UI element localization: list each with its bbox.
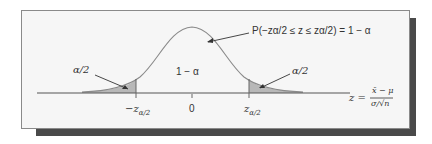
tick-center-label: 0 [189, 103, 195, 114]
normal-curve [82, 27, 303, 92]
z-denominator: σ/√n [371, 99, 389, 108]
tick-right-label: zα/2 [244, 103, 261, 117]
probability-statement: P(−zα/2 ≤ z ≤ zα/2) = 1 − α [252, 25, 371, 36]
normal-curve-diagram [0, 0, 432, 144]
center-area-label: 1 − α [176, 66, 199, 77]
right-tail-label: α/2 [292, 65, 308, 76]
right-tail-shade [249, 79, 303, 93]
left-tail-label: α/2 [73, 64, 89, 75]
z-label: z = [349, 92, 366, 103]
tick-left-label: −zα/2 [125, 103, 150, 117]
z-numerator: x̄ − μ [372, 86, 394, 95]
